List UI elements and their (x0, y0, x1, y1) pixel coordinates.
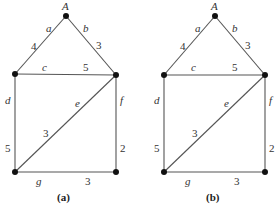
vertex-A (212, 13, 218, 19)
edge-weight-c: 5 (83, 61, 89, 73)
vertex-top-right (113, 72, 119, 78)
caption-b: (b) (206, 191, 220, 204)
edge-label-c: c (191, 61, 196, 73)
edge-b (215, 16, 265, 75)
edge-a (164, 16, 215, 75)
vertex-label-A: A (210, 0, 218, 12)
edge-label-e: e (224, 97, 229, 109)
vertex-A (63, 13, 69, 19)
edge-e (164, 75, 265, 172)
edge-weight-c: 5 (232, 61, 238, 73)
vertex-bottom-right (262, 169, 268, 175)
edge-weight-e: 3 (43, 127, 49, 139)
vertex-bottom-right (113, 169, 119, 175)
vertex-label-A: A (61, 0, 69, 12)
graph-b: A a 4 b 3 c 5 d 5 e 3 f 2 g 3 (b) (154, 0, 275, 204)
edge-weight-e: 3 (192, 127, 198, 139)
edge-weight-b: 3 (96, 39, 102, 51)
edge-label-b: b (232, 22, 238, 34)
edge-label-g: g (36, 175, 42, 187)
edge-label-a: a (195, 22, 201, 34)
edge-label-b: b (83, 22, 89, 34)
edge-weight-b: 3 (245, 39, 251, 51)
edge-label-a: a (46, 22, 52, 34)
vertex-bottom-left (161, 169, 167, 175)
edge-label-d: d (5, 94, 11, 106)
edge-label-f: f (120, 94, 125, 106)
vertex-top-right (262, 72, 268, 78)
edge-c (15, 74, 116, 75)
edge-label-e: e (75, 97, 80, 109)
edge-weight-f: 2 (120, 142, 126, 154)
edge-weight-d: 5 (154, 142, 160, 154)
edge-weight-g: 3 (85, 175, 91, 187)
edge-label-d: d (154, 94, 160, 106)
vertex-top-left (12, 71, 18, 77)
caption-a: (a) (57, 191, 70, 204)
edge-e (15, 75, 116, 172)
edge-label-g: g (185, 175, 191, 187)
edge-weight-d: 5 (5, 142, 11, 154)
edge-weight-g: 3 (234, 175, 240, 187)
edge-label-c: c (42, 61, 47, 73)
edge-weight-f: 2 (269, 142, 275, 154)
vertex-bottom-left (12, 169, 18, 175)
graph-a: A a 4 b 3 c 5 d 5 e 3 f 2 g 3 (a) (5, 0, 126, 204)
edge-weight-a: 4 (180, 40, 186, 52)
edge-a (15, 16, 66, 74)
vertex-top-left (161, 72, 167, 78)
edge-b (66, 16, 116, 75)
graph-figure: A a 4 b 3 c 5 d 5 e 3 f 2 g 3 (a) A a 4 … (0, 0, 278, 213)
edge-weight-a: 4 (31, 40, 37, 52)
edge-label-f: f (269, 94, 274, 106)
